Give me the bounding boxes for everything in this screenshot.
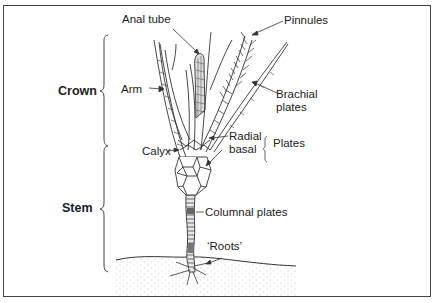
label-arm: Arm (121, 83, 142, 96)
label-columnal-plates: Columnal plates (205, 206, 287, 219)
label-pinnules: Pinnules (284, 14, 328, 27)
label-radial: Radial (229, 130, 262, 143)
stem-brace-icon (100, 146, 108, 272)
label-brachial-plates: plates (276, 101, 307, 114)
label-plates: Plates (273, 137, 305, 150)
calyx (175, 157, 211, 195)
label-basal: basal (229, 143, 257, 156)
label-stem: Stem (62, 202, 93, 216)
label-roots: ‘Roots’ (207, 240, 242, 253)
crown-brace-icon (100, 35, 108, 146)
label-calyx: Calyx (142, 145, 171, 158)
label-crown: Crown (58, 85, 97, 99)
label-anal-tube: Anal tube (122, 13, 171, 26)
label-brachial: Brachial (276, 88, 318, 101)
sediment-ground (116, 257, 296, 296)
leader-lines (149, 21, 283, 264)
plates-brace-icon (263, 136, 267, 162)
stem-column (186, 195, 195, 272)
arms (154, 32, 288, 157)
crinoid-illustration (0, 0, 439, 303)
